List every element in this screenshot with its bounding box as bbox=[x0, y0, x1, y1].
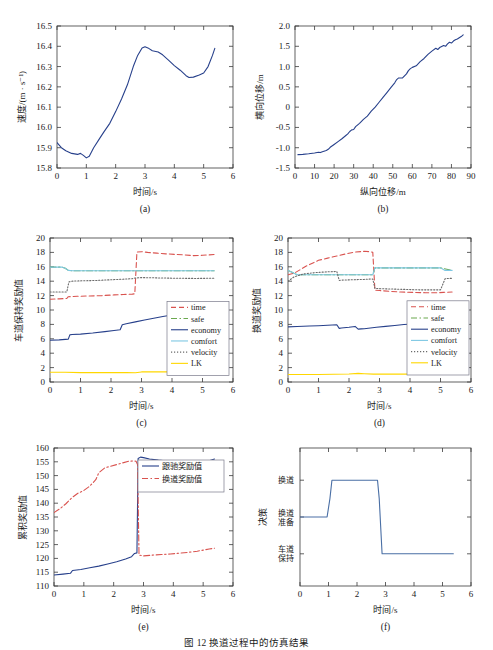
y-tick-label: 16.4 bbox=[36, 41, 52, 51]
x-tick-label: 5 bbox=[200, 385, 205, 395]
y-tick-label: 2.0 bbox=[279, 21, 291, 31]
x-axis-title: 时间/s bbox=[133, 186, 158, 197]
x-tick-label: 4 bbox=[171, 589, 176, 599]
x-tick-label: 3 bbox=[377, 385, 382, 395]
x-axis-title: 时间/s bbox=[373, 604, 398, 615]
y-tick-label: 16.3 bbox=[36, 62, 52, 72]
y-axis: 车道保持换道准备换道 bbox=[278, 475, 471, 563]
x-tick-label: 50 bbox=[388, 171, 398, 181]
x-tick-label: 40 bbox=[369, 171, 379, 181]
x-tick-label: 6 bbox=[469, 385, 474, 395]
y-tick-label: 2 bbox=[41, 363, 46, 373]
series-line-comfort bbox=[50, 267, 214, 271]
y-tick-label: 1.5 bbox=[279, 41, 291, 51]
figure-caption: 图 12 换道过程中的仿真结果 bbox=[184, 638, 308, 648]
y-tick-label: 18 bbox=[274, 247, 284, 257]
x-tick-label: 70 bbox=[427, 171, 437, 181]
x-tick-label: 4 bbox=[172, 171, 177, 181]
y-tick-label: 140 bbox=[36, 498, 50, 508]
y-tick-label: 120 bbox=[36, 553, 50, 563]
x-tick-label: 2 bbox=[347, 385, 352, 395]
legend-label-comfort: comfort bbox=[191, 337, 218, 346]
y-tick-label: 6 bbox=[41, 334, 46, 344]
x-axis-title: 纵向位移/m bbox=[360, 186, 406, 197]
subplot-c-canvas: 012345602468101214161820timesafeeconomyc… bbox=[10, 222, 245, 434]
x-tick-label: 0 bbox=[293, 171, 298, 181]
x-tick-label: 4 bbox=[412, 589, 417, 599]
y-tick-label: 10 bbox=[36, 305, 46, 315]
y-tick-label: 16 bbox=[274, 262, 284, 272]
x-tick-label: 90 bbox=[467, 171, 477, 181]
x-tick-label: 80 bbox=[447, 171, 457, 181]
y-tick-label: 0 bbox=[279, 377, 284, 387]
y-tick-label: 15.8 bbox=[36, 163, 52, 173]
x-tick-label: 0 bbox=[55, 171, 60, 181]
y-tick-label: 4 bbox=[279, 348, 284, 358]
x-tick-label: 0 bbox=[48, 385, 53, 395]
y-axis: -1.5-1.0-0.500.51.01.52.0 bbox=[276, 21, 471, 173]
x-tick-label: 6 bbox=[231, 171, 236, 181]
x-tick-label: 30 bbox=[349, 171, 359, 181]
legend-label-economy: economy bbox=[191, 326, 222, 335]
x-tick-label: 1 bbox=[78, 385, 83, 395]
x-tick-label: 2 bbox=[109, 385, 114, 395]
y-tick-label: 130 bbox=[36, 526, 50, 536]
y-axis-title: 换道奖励值 bbox=[251, 288, 262, 333]
legend-label-LK: LK bbox=[431, 359, 442, 368]
y-tick-label: 150 bbox=[36, 471, 50, 481]
y-tick-label: -0.5 bbox=[276, 122, 291, 132]
subplot-f: 0123456车道保持换道准备换道时间/s决策(f) bbox=[248, 438, 483, 638]
y-axis-title: 速度/(m · s⁻¹) bbox=[16, 71, 27, 123]
y-tick-label: 保持 bbox=[278, 553, 294, 563]
subplot-c: 012345602468101214161820timesafeeconomyc… bbox=[10, 222, 245, 434]
x-tick-label: 20 bbox=[330, 171, 340, 181]
plot-frame bbox=[57, 26, 233, 168]
y-tick-label: 14 bbox=[36, 276, 46, 286]
y-axis-title: 决策 bbox=[257, 508, 268, 526]
x-tick-label: 5 bbox=[440, 589, 445, 599]
x-tick-label: 5 bbox=[201, 171, 206, 181]
legend-label-LK: LK bbox=[191, 359, 202, 368]
x-tick-label: 2 bbox=[111, 589, 116, 599]
legend-label-time: time bbox=[191, 303, 206, 312]
y-tick-label: 125 bbox=[36, 540, 50, 550]
x-axis-title: 时间/s bbox=[367, 400, 392, 411]
y-tick-label: 换道 bbox=[278, 508, 294, 518]
y-tick-label: 160 bbox=[36, 443, 50, 453]
series-group bbox=[300, 480, 453, 554]
figure-caption-row: 图 12 换道过程中的仿真结果 bbox=[0, 632, 493, 650]
x-tick-label: 0 bbox=[298, 589, 303, 599]
legend-label-换道奖励值: 换道奖励值 bbox=[162, 474, 202, 484]
x-tick-label: 6 bbox=[231, 385, 236, 395]
legend-label-economy: economy bbox=[431, 325, 462, 334]
subplot-e: 0123456110115120125130135140145150155160… bbox=[10, 438, 245, 638]
y-axis-title: 累积奖励值 bbox=[17, 495, 28, 540]
y-tick-label: 8 bbox=[41, 319, 46, 329]
y-tick-label: 16.5 bbox=[36, 21, 52, 31]
legend-label-safe: safe bbox=[431, 314, 445, 323]
x-tick-label: 3 bbox=[383, 589, 388, 599]
subplot-b-canvas: 0102030405060708090-1.5-1.0-0.500.51.01.… bbox=[248, 8, 483, 220]
x-tick-label: 60 bbox=[408, 171, 418, 181]
x-tick-label: 6 bbox=[469, 589, 474, 599]
y-axis-title: 车道保持奖励值 bbox=[13, 279, 24, 342]
y-tick-label: -1.5 bbox=[276, 163, 291, 173]
legend-label-velocity: velocity bbox=[191, 348, 218, 357]
x-tick-label: 3 bbox=[139, 385, 144, 395]
legend-label-safe: safe bbox=[191, 315, 205, 324]
y-tick-label: 16 bbox=[36, 262, 46, 272]
subplot-a: 012345615.815.916.016.116.216.316.416.5时… bbox=[10, 8, 245, 220]
y-tick-label: 车道 bbox=[278, 544, 294, 554]
x-tick-label: 0 bbox=[286, 385, 291, 395]
y-tick-label: 16.1 bbox=[36, 102, 52, 112]
series-line-comfort bbox=[288, 268, 452, 275]
subplot-caption-a: (a) bbox=[140, 204, 151, 215]
series-line-time bbox=[50, 252, 214, 300]
x-tick-label: 1 bbox=[316, 385, 321, 395]
legend-label-time: time bbox=[431, 303, 446, 312]
y-tick-label: 110 bbox=[36, 581, 50, 591]
x-tick-label: 4 bbox=[408, 385, 413, 395]
y-tick-label: 115 bbox=[36, 567, 50, 577]
y-tick-label: 2 bbox=[279, 363, 284, 373]
